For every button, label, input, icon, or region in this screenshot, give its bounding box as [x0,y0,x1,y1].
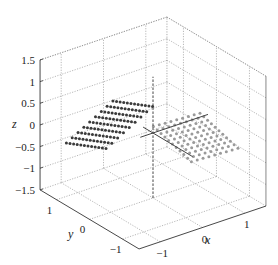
center-axes [140,77,208,198]
z-tick-label: −1 [23,162,35,174]
scatter-points [65,100,240,164]
x-tick-label: −1 [156,247,168,259]
y-tick-label: −1 [110,243,122,255]
y-tick-label: 1 [47,204,53,216]
z-axis-label: z [11,117,17,131]
y-tick-label: 0 [80,223,86,235]
x-tick-label: 1 [244,218,250,230]
z-tick-label: −0.5 [15,141,35,153]
y-axis-label: y [67,227,74,241]
z-tick-label: 1 [30,76,36,88]
z-tick-label: 0 [30,119,36,131]
z-tick-label: −1.5 [15,184,35,196]
z-tick-label: 0.5 [21,97,35,109]
x-axis-label: x [204,233,211,247]
scatter3d-plot: −1.5−1−0.500.511.5−101−101 z y x [0,0,278,265]
z-tick-label: 1.5 [21,54,35,66]
